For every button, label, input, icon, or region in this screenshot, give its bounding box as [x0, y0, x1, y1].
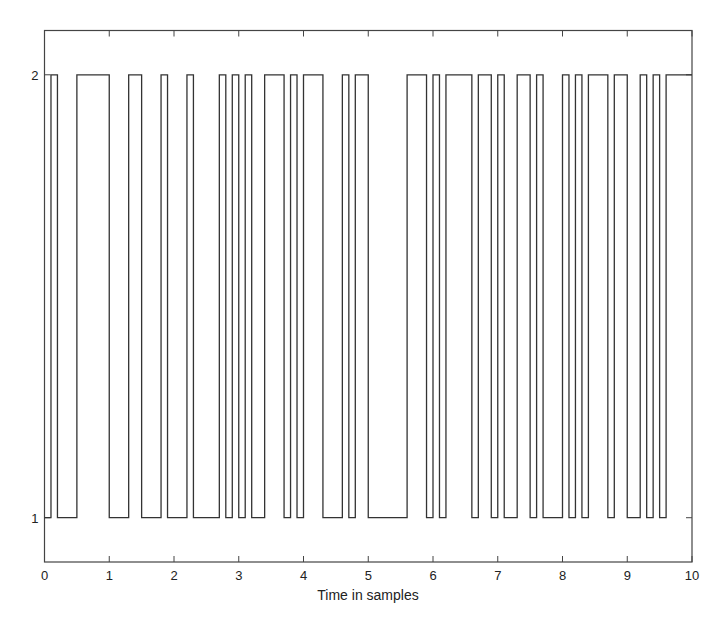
- y-axis-ticks: 12: [31, 68, 692, 526]
- x-tick-label: 4: [300, 568, 307, 583]
- x-tick-label: 1: [106, 568, 113, 583]
- x-tick-label: 5: [365, 568, 372, 583]
- x-tick-label: 7: [494, 568, 501, 583]
- y-tick-label: 1: [31, 511, 38, 526]
- step-chart: 012345678910 12 Time in samples: [0, 0, 727, 629]
- x-axis-label: Time in samples: [317, 587, 418, 603]
- x-tick-label: 9: [624, 568, 631, 583]
- x-tick-label: 8: [559, 568, 566, 583]
- x-tick-label: 6: [429, 568, 436, 583]
- x-tick-label: 2: [170, 568, 177, 583]
- x-tick-label: 3: [235, 568, 242, 583]
- signal-line: [45, 75, 693, 518]
- x-tick-label: 10: [685, 568, 699, 583]
- x-tick-label: 0: [41, 568, 48, 583]
- y-tick-label: 2: [31, 68, 38, 83]
- x-axis-ticks: 012345678910: [41, 31, 699, 584]
